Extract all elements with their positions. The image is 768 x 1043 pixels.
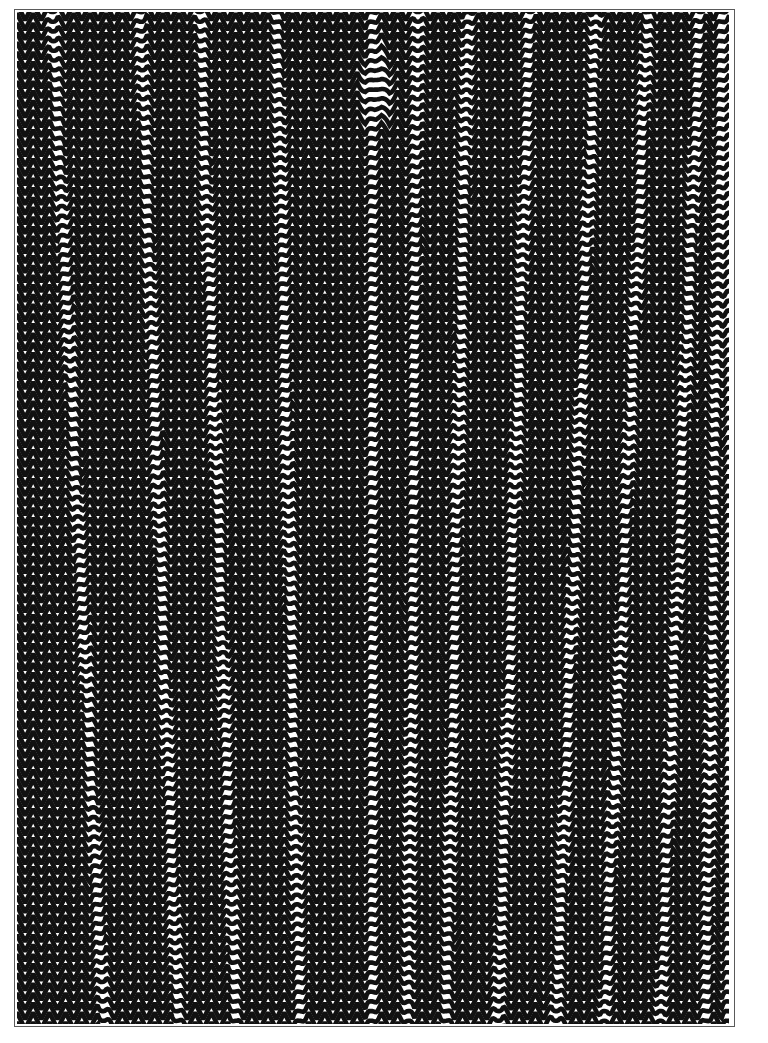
artwork-page: Op-Art Zigzag Plate [0,0,768,1043]
zigzag-pattern-canvas [17,12,729,1024]
